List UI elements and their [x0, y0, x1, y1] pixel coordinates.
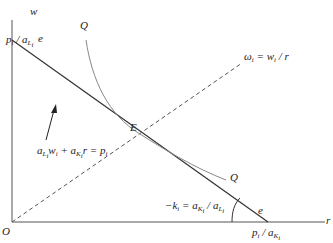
- y-intercept-label: pi / aLi: [6, 34, 33, 49]
- equilibrium-point-label: E: [130, 122, 137, 133]
- y-axis-label: w: [30, 6, 37, 17]
- arrowhead-icon: [51, 104, 57, 113]
- origin-label: O: [2, 226, 10, 237]
- slope-label: −ki = aKi / aLi: [165, 200, 224, 215]
- equation-pointer-arrow: [46, 110, 54, 140]
- cost-line-e: [12, 40, 268, 222]
- x-intercept-label: pi / aKi: [252, 227, 280, 242]
- cost-line-bottom-label: e: [258, 205, 263, 216]
- cost-line-top-label: e: [38, 33, 43, 44]
- isoquant-bottom-label: Q: [230, 172, 238, 183]
- ray-label: ωi = wi / r: [244, 51, 289, 64]
- isoquant-top-label: Q: [80, 20, 88, 31]
- x-axis-label: r: [326, 215, 330, 226]
- cost-equation-label: aLiwi + aKir = pi: [37, 145, 107, 160]
